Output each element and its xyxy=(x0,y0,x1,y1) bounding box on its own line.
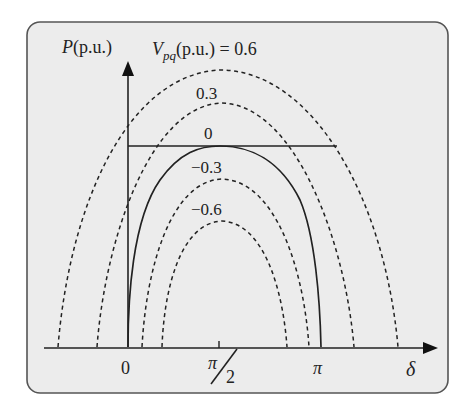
curve-label-minus-0.6: −0.6 xyxy=(191,200,222,219)
diagram-frame xyxy=(27,22,448,393)
pv-diagram: P(p.u.) Vpq(p.u.) = 0.6 0.3 0 −0.3 −0.6 … xyxy=(0,0,472,412)
curve-label-0.3: 0.3 xyxy=(196,84,217,103)
x-tick-label-pi-over-2-numerator: π xyxy=(208,353,218,373)
x-tick-label-pi-over-2-denominator: 2 xyxy=(226,367,235,387)
x-tick-label-0: 0 xyxy=(121,358,130,378)
x-axis-label: δ xyxy=(406,358,416,380)
curve-label-0: 0 xyxy=(204,124,213,143)
x-tick-label-pi: π xyxy=(313,358,323,378)
y-axis-label: P(p.u.) xyxy=(61,37,112,58)
curve-label-minus-0.3: −0.3 xyxy=(191,158,222,177)
